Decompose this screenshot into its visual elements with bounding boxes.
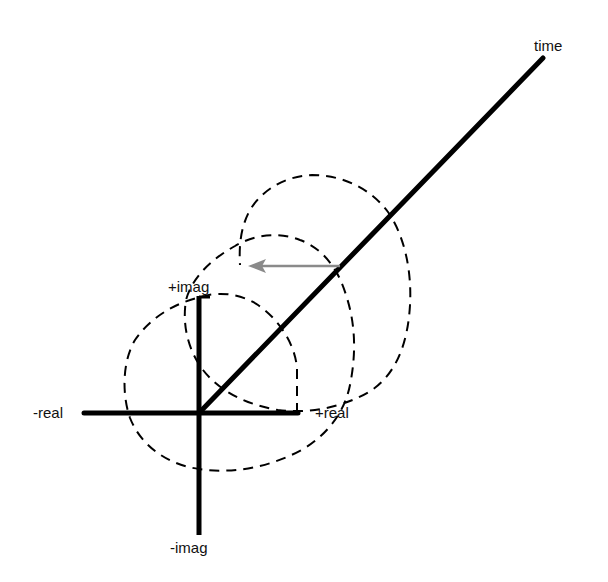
time-axis bbox=[199, 58, 543, 413]
label-plus-imag: +imag bbox=[168, 278, 209, 295]
label-minus-real: -real bbox=[33, 404, 63, 421]
label-plus-real: +real bbox=[315, 404, 349, 421]
dashed-spiral bbox=[125, 175, 411, 471]
label-time: time bbox=[534, 37, 562, 54]
label-minus-imag: -imag bbox=[170, 539, 208, 556]
helix-diagram: time +imag -imag -real +real bbox=[0, 0, 608, 582]
